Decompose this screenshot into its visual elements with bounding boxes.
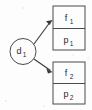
record-1-cell-p1-base-label: p (63, 35, 68, 45)
record-1-cell-f1-subscript: 1 (70, 18, 74, 25)
edge-d1-to-record-1-line (34, 22, 51, 45)
record-1-cell-p1-subscript: 1 (70, 40, 74, 47)
diagram-canvas: d 1 f 1 p 1 f 2 p (0, 0, 92, 110)
record-2-cell-p2-base-label: p (63, 89, 68, 99)
node-d1-subscript: 1 (23, 51, 27, 58)
diagram-svg: d 1 f 1 p 1 f 2 p (0, 0, 92, 110)
edge-d1-to-record-1-arrowhead (46, 20, 53, 25)
node-d1[interactable]: d 1 (10, 39, 36, 65)
edge-d1-to-record-1 (34, 20, 53, 44)
record-2-cell-p2-subscript: 2 (70, 94, 74, 101)
record-2[interactable]: f 2 p 2 (53, 62, 85, 104)
edge-d1-to-record-2 (34, 59, 53, 74)
edge-d1-to-record-2-line (34, 59, 51, 71)
node-d1-base-label: d (16, 46, 21, 56)
record-1[interactable]: f 1 p 1 (53, 6, 85, 50)
record-2-cell-f2-subscript: 2 (70, 73, 74, 80)
